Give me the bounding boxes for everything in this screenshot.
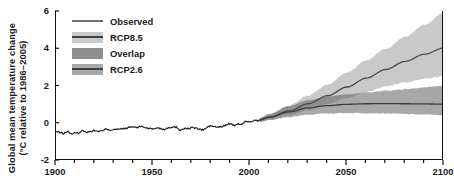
legend-line bbox=[72, 36, 103, 38]
x-tick-label: 1900 bbox=[32, 166, 78, 177]
legend-swatch-rcp8-5 bbox=[72, 32, 103, 43]
legend-swatch-observed bbox=[72, 16, 103, 27]
legend-label: Observed bbox=[110, 16, 153, 27]
y-tick-label: 0 bbox=[33, 117, 49, 128]
chart-figure: Global mean temperature change (°C relat… bbox=[0, 0, 454, 196]
legend-item[interactable]: Observed bbox=[72, 13, 153, 29]
legend-label: Overlap bbox=[110, 48, 145, 59]
legend-line bbox=[72, 68, 103, 70]
legend-line bbox=[72, 20, 103, 21]
legend-line bbox=[72, 52, 103, 54]
x-tick-label: 1950 bbox=[129, 166, 175, 177]
y-axis-title: Global mean temperature change (°C relat… bbox=[0, 0, 36, 196]
x-tick-label: 2050 bbox=[323, 166, 369, 177]
legend-item[interactable]: Overlap bbox=[72, 45, 153, 61]
x-tick-label: 2000 bbox=[226, 166, 272, 177]
y-axis-title-line2: (°C relative to 1986–2005) bbox=[18, 41, 28, 156]
legend-label: RCP2.6 bbox=[110, 64, 143, 75]
chart-legend: ObservedRCP8.5OverlapRCP2.6 bbox=[72, 13, 153, 77]
y-tick-label: 4 bbox=[33, 42, 49, 53]
y-tick-label: 6 bbox=[33, 5, 49, 16]
legend-label: RCP8.5 bbox=[110, 32, 143, 43]
y-tick-label: 2 bbox=[33, 80, 49, 91]
legend-item[interactable]: RCP8.5 bbox=[72, 29, 153, 45]
y-axis-title-line1: Global mean temperature change bbox=[7, 23, 17, 173]
legend-swatch-overlap bbox=[72, 48, 103, 59]
legend-item[interactable]: RCP2.6 bbox=[72, 61, 153, 77]
legend-swatch-rcp2-6 bbox=[72, 64, 103, 75]
y-tick-label: -2 bbox=[33, 154, 49, 165]
x-tick-label: 2100 bbox=[420, 166, 454, 177]
